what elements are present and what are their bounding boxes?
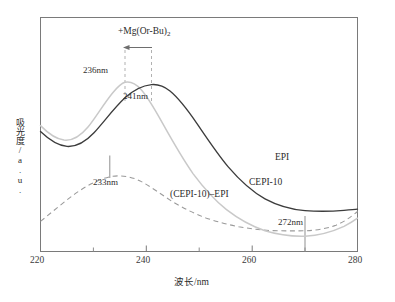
series-label-cepi10: CEPI-10	[249, 178, 282, 188]
peak-annotation-241nm: 241nm	[123, 92, 148, 101]
reagent-annotation: +Mg(Or-Bu)2	[118, 27, 170, 37]
plot-frame	[41, 18, 358, 252]
series-label-epi: EPI	[275, 153, 289, 163]
x-tick-label-280: 280	[348, 256, 362, 266]
x-axis-title: 波长/nm	[174, 278, 209, 288]
reagent-annotation-subscript: 2	[167, 30, 171, 38]
spectrum-plot	[0, 0, 395, 302]
peak-annotation-236nm: 236nm	[83, 66, 108, 75]
x-tick-label-260: 260	[242, 256, 256, 266]
peak-annotation-272nm: 272nm	[278, 218, 303, 227]
y-axis-title: 吸光度/a.u.	[10, 118, 24, 195]
series-label-difference: (CEPI-10)–EPI	[170, 190, 229, 200]
figure-root: 吸光度/a.u. 波长/nm 220 240 260 280 +Mg(Or-Bu…	[0, 0, 395, 302]
x-tick-label-240: 240	[136, 256, 150, 266]
reagent-annotation-text: +Mg(Or-Bu)	[118, 26, 167, 36]
peak-annotation-233nm: 233nm	[93, 178, 118, 187]
x-tick-label-220: 220	[30, 256, 44, 266]
